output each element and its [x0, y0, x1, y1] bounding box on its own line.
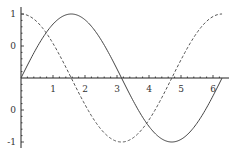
- line-chart: 123456 100-1: [0, 0, 240, 152]
- y-tick-label: -1: [7, 137, 16, 147]
- y-tick-labels: 100-1: [7, 9, 16, 147]
- axes: [21, 7, 229, 148]
- y-tick-label: 1: [10, 9, 16, 19]
- x-tick-label: 4: [146, 84, 152, 94]
- x-tick-label: 3: [114, 84, 120, 94]
- y-tick-label: 0: [10, 41, 16, 51]
- y-tick-label: 0: [10, 105, 16, 115]
- x-tick-label: 2: [82, 84, 88, 94]
- x-tick-label: 5: [178, 84, 184, 94]
- x-tick-label: 1: [50, 84, 56, 94]
